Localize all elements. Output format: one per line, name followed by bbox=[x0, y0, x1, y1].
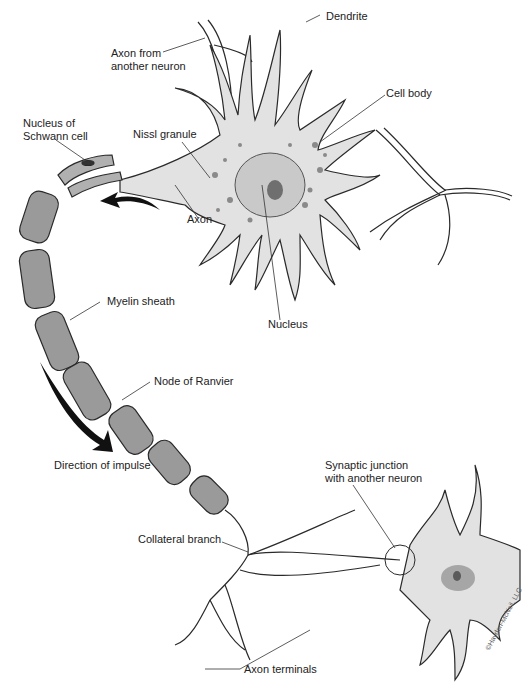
label-line: Synaptic junction bbox=[325, 459, 422, 472]
label-axon: Axon bbox=[187, 213, 212, 226]
schwann-cell bbox=[58, 155, 122, 197]
label-cell-body: Cell body bbox=[386, 87, 432, 100]
label-collateral-branch: Collateral branch bbox=[138, 533, 221, 546]
label-line: with another neuron bbox=[325, 472, 422, 485]
label-myelin-sheath: Myelin sheath bbox=[107, 295, 175, 308]
label-synaptic-junction: Synaptic junction with another neuron bbox=[325, 459, 422, 485]
label-axon-from-another-neuron: Axon from another neuron bbox=[111, 47, 186, 73]
label-direction-of-impulse: Direction of impulse bbox=[54, 459, 151, 472]
label-dendrite: Dendrite bbox=[326, 10, 368, 23]
label-nissl-granule: Nissl granule bbox=[133, 128, 197, 141]
label-line: another neuron bbox=[111, 60, 186, 73]
label-schwann-nucleus: Nucleus of Schwann cell bbox=[23, 117, 88, 143]
second-neuron bbox=[385, 465, 520, 680]
label-line: Nucleus of bbox=[23, 117, 88, 130]
label-axon-terminals: Axon terminals bbox=[244, 663, 317, 676]
nucleolus bbox=[267, 180, 283, 200]
label-nucleus: Nucleus bbox=[268, 318, 308, 331]
neuron-diagram bbox=[0, 0, 526, 698]
label-line: Schwann cell bbox=[23, 130, 88, 143]
label-node-of-ranvier: Node of Ranvier bbox=[154, 375, 234, 388]
label-line: Axon from bbox=[111, 47, 186, 60]
